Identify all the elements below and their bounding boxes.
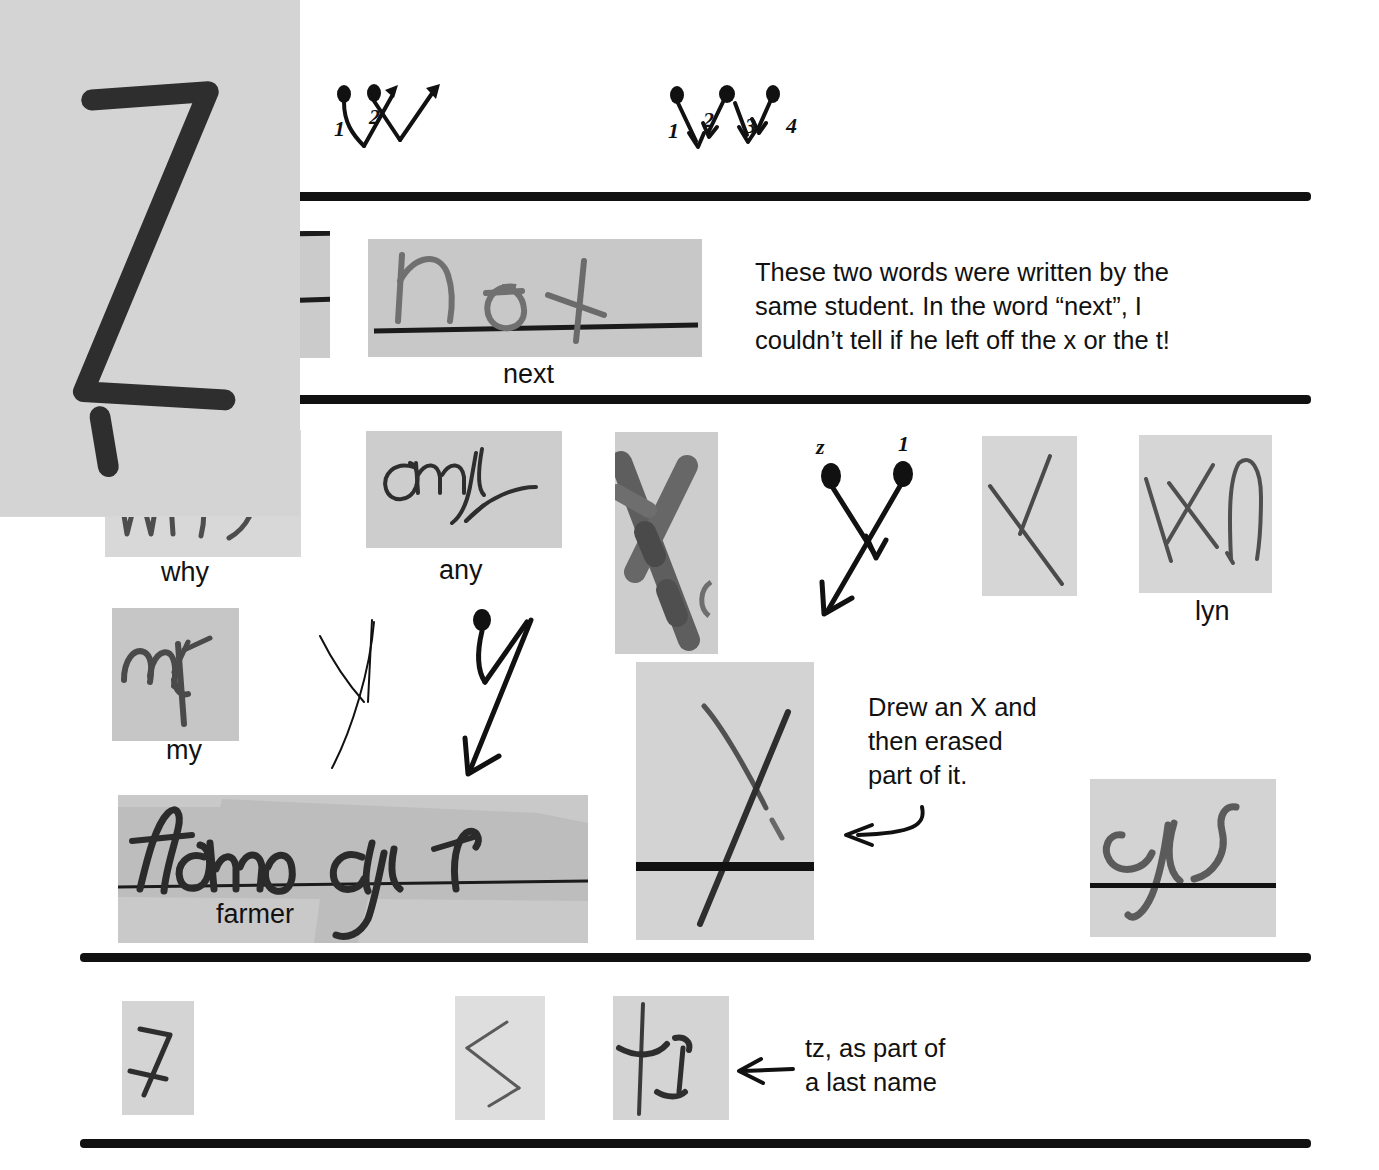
stroke-diagram-y-two-stroke [808, 452, 928, 617]
stroke-number-w2-1: 1 [334, 116, 345, 142]
scan-sample-z-sideways [455, 996, 545, 1120]
scan-sample-farmer [118, 795, 588, 943]
stroke-diagram-w-two-stroke [330, 82, 465, 162]
stroke-number-w2-2: 2 [369, 104, 380, 130]
ink-y-arrow-diagram [455, 608, 545, 783]
scan-sample-next [368, 239, 702, 357]
scan-sample-cursive-y [1090, 779, 1276, 937]
scan-sample-z-2 [0, 0, 300, 517]
note-next-line-1: These two words were written by the [755, 255, 1170, 289]
scan-sample-any [366, 431, 562, 548]
handwriting-samples-page: 1 2 1 2 3 4 [0, 0, 1379, 1170]
stroke-number-y-2: 1 [898, 431, 909, 457]
note-erased-x-line-2: then erased [868, 724, 1037, 758]
caption-any: any [439, 556, 483, 586]
caption-next: next [503, 360, 554, 390]
caption-farmer: farmer [216, 900, 294, 930]
stroke-number-w4-3: 3 [745, 113, 756, 139]
note-tz-line-2: a last name [805, 1065, 945, 1099]
section-divider-3 [80, 953, 1311, 962]
scan-sample-thick-y [615, 432, 718, 654]
scan-sample-erased-x [636, 662, 814, 940]
pointer-arrow-erased-x [838, 805, 928, 850]
stroke-number-w4-1: 1 [668, 118, 679, 144]
note-tz-line-1: tz, as part of [805, 1031, 945, 1065]
stroke-number-w4-2: 2 [703, 107, 714, 133]
note-next-word: These two words were written by the same… [755, 255, 1170, 357]
ink-y-outline [310, 610, 400, 775]
stroke-number-w4-4: 4 [786, 113, 797, 139]
caption-why: why [161, 558, 209, 588]
caption-lyn: lyn [1195, 597, 1230, 627]
note-next-line-2: same student. In the word “next”, I [755, 289, 1170, 323]
scan-sample-tz [613, 996, 729, 1120]
pointer-arrow-tz [735, 1055, 797, 1089]
scan-sample-z-1 [122, 1001, 194, 1115]
note-erased-x: Drew an X and then erased part of it. [868, 690, 1037, 792]
stroke-number-y-1: z [816, 434, 825, 460]
scan-sample-y-single-stroke [982, 436, 1077, 596]
scan-sample-lyn [1139, 435, 1272, 593]
caption-my: my [166, 736, 202, 766]
note-next-line-3: couldn’t tell if he left off the x or th… [755, 323, 1170, 357]
note-erased-x-line-1: Drew an X and [868, 690, 1037, 724]
section-divider-4 [80, 1139, 1311, 1148]
scan-sample-my [112, 608, 239, 741]
note-tz: tz, as part of a last name [805, 1031, 945, 1099]
note-erased-x-line-3: part of it. [868, 758, 1037, 792]
